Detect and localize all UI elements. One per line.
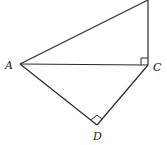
segment-dc [97, 65, 148, 125]
segment-ab [20, 0, 148, 64]
segment-ac [20, 64, 148, 65]
label-d: D [92, 130, 102, 143]
label-a: A [4, 59, 13, 72]
right-angle-mark-d [91, 115, 102, 120]
right-angle-mark-c [141, 58, 148, 65]
segment-ad [20, 64, 97, 125]
label-c: C [153, 61, 162, 74]
geometry-diagram: A C D [0, 0, 167, 145]
